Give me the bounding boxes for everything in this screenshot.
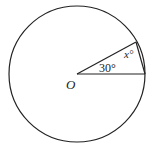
- angle-30-label: 30°: [99, 61, 116, 75]
- center-label: O: [66, 77, 76, 92]
- circle-diagram: O 30° x°: [0, 0, 154, 147]
- angle-x-label: x°: [123, 48, 134, 60]
